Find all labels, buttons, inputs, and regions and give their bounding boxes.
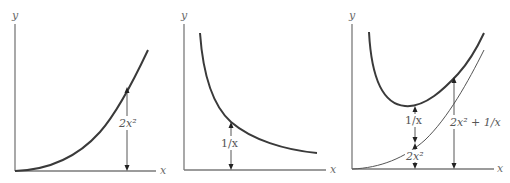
dimension-label-1-over-x: 1/x — [221, 137, 239, 150]
figure-three-panels: y x 2x² y x 1/x y x 1/x — [0, 0, 510, 183]
panel-parabola: y x 2x² — [11, 9, 167, 177]
arrowhead-down — [413, 137, 418, 143]
panel-hyperbola: y x 1/x — [180, 9, 337, 176]
arrowhead-up — [413, 106, 418, 112]
y-axis-label: y — [348, 9, 356, 22]
x-axis-label: x — [330, 163, 337, 176]
y-axis-label: y — [11, 9, 19, 22]
x-axis-label: x — [160, 164, 167, 177]
curve-2x-squared — [15, 50, 148, 171]
arrowhead-down — [125, 165, 130, 171]
dimension-label-2x2: 2x² — [405, 150, 424, 163]
panel-sum: y x 1/x 2x² 2x² + 1/x — [348, 9, 507, 175]
dimension-label-2x2: 2x² — [118, 117, 137, 130]
y-axis-label: y — [180, 9, 188, 22]
arrowhead-down — [229, 164, 234, 170]
dimension-label-1-over-x: 1/x — [405, 114, 423, 127]
x-axis-label: x — [497, 162, 504, 175]
arrowhead-up — [413, 143, 418, 149]
arrowhead-down — [452, 163, 457, 169]
arrowhead-down — [413, 163, 418, 169]
curve-one-over-x — [200, 33, 317, 153]
curve-sum — [369, 32, 484, 106]
dimension-label-sum: 2x² + 1/x — [449, 116, 502, 129]
